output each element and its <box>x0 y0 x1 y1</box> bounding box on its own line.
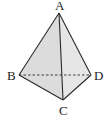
vertex-label-a: A <box>55 0 65 13</box>
face-acd <box>59 13 91 100</box>
vertex-label-b: B <box>7 68 16 83</box>
vertex-label-d: D <box>94 68 103 83</box>
tetrahedron-diagram: A B D C <box>0 0 112 126</box>
vertex-label-c: C <box>59 103 68 118</box>
